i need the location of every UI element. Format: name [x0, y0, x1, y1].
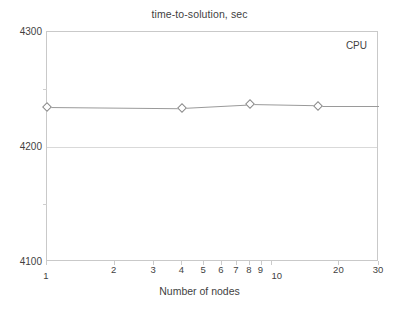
series-line-segment	[47, 107, 182, 109]
x-axis-title: Number of nodes	[0, 285, 399, 297]
x-tick	[46, 261, 47, 265]
x-tick-label: 3	[151, 264, 156, 275]
data-point-marker	[313, 101, 323, 111]
y-minor-tick	[43, 89, 47, 90]
x-tick-label: 2	[111, 264, 116, 275]
chart-title: time-to-solution, sec	[0, 8, 399, 20]
y-tick-label: 4100	[2, 256, 42, 267]
y-tick-label: 4300	[2, 26, 42, 37]
chart-container: time-to-solution, sec CPU Number of node…	[0, 0, 399, 309]
series-line-segment	[182, 104, 250, 108]
x-tick-label: 9	[258, 264, 263, 275]
y-minor-tick	[43, 204, 47, 205]
x-tick-label: 1	[43, 270, 48, 281]
x-tick-label: 4	[179, 264, 184, 275]
data-point-marker	[42, 102, 52, 112]
data-point-marker	[245, 99, 255, 109]
series-line-segment	[318, 106, 379, 107]
x-tick-label: 5	[200, 264, 205, 275]
series-line-segment	[250, 104, 318, 106]
legend-label-cpu: CPU	[346, 40, 367, 51]
x-tick-label: 7	[233, 264, 238, 275]
x-tick-label: 20	[333, 264, 344, 275]
x-tick-label: 6	[218, 264, 223, 275]
x-tick-label: 30	[373, 264, 384, 275]
x-tick-label: 10	[272, 270, 283, 281]
x-tick	[271, 261, 272, 265]
x-tick-label: 8	[246, 264, 251, 275]
data-point-marker	[177, 103, 187, 113]
plot-area: CPU	[46, 31, 378, 261]
y-gridline	[47, 147, 377, 148]
y-tick-label: 4200	[2, 141, 42, 152]
